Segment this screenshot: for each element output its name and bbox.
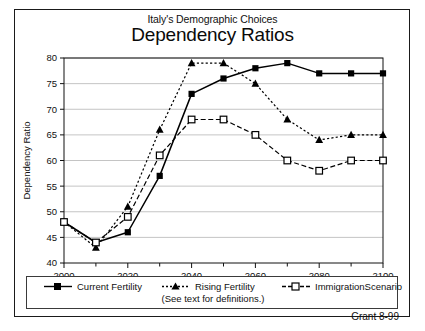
credit-line: Grant 8-99 xyxy=(351,311,399,322)
legend-label-rising-fertility: Rising Fertility xyxy=(195,281,255,292)
legend-item-rising-fertility[interactable]: Rising Fertility xyxy=(161,279,255,294)
legend-note: (See text for definitions.) xyxy=(27,293,399,304)
legend-item-current-fertility[interactable]: Current Fertility xyxy=(43,279,142,294)
legend-label-immigration-scenario: ImmigrationScenario xyxy=(315,281,402,292)
figure-border xyxy=(14,9,410,317)
legend-item-immigration-scenario[interactable]: ImmigrationScenario xyxy=(281,279,402,294)
legend-row: Current Fertility Rising Fertility Immig… xyxy=(27,279,399,294)
legend-swatch-rising-fertility xyxy=(161,280,191,293)
figure-root: Italy's Demographic Choices Dependency R… xyxy=(0,0,425,331)
legend: Current Fertility Rising Fertility Immig… xyxy=(26,276,398,309)
legend-swatch-immigration-scenario xyxy=(281,280,311,293)
legend-swatch-current-fertility xyxy=(43,280,73,293)
legend-label-current-fertility: Current Fertility xyxy=(77,281,142,292)
title-block: Italy's Demographic Choices Dependency R… xyxy=(0,13,425,46)
chart-subtitle: Dependency Ratios xyxy=(0,24,425,46)
